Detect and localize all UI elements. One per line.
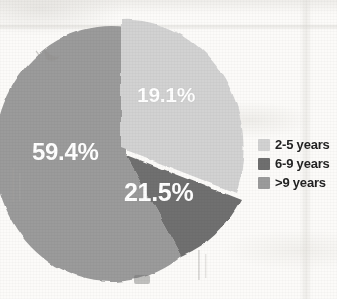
legend-label-6-9-years: 6-9 years (275, 156, 330, 171)
legend-item-gt-9-years[interactable]: >9 years (258, 175, 330, 190)
legend-swatch-icon (258, 177, 270, 189)
slice-label-2-5-years: 19.1% (137, 83, 195, 107)
legend-swatch-icon (258, 139, 270, 151)
slice-label-6-9-years: 21.5% (124, 178, 193, 207)
chart-legend: 2-5 years 6-9 years >9 years (258, 137, 330, 190)
legend-label-2-5-years: 2-5 years (275, 137, 330, 152)
legend-item-6-9-years[interactable]: 6-9 years (258, 156, 330, 171)
legend-swatch-icon (258, 158, 270, 170)
legend-label-gt-9-years: >9 years (275, 175, 326, 190)
slice-label-gt-9-years: 59.4% (32, 138, 99, 166)
legend-item-2-5-years[interactable]: 2-5 years (258, 137, 330, 152)
